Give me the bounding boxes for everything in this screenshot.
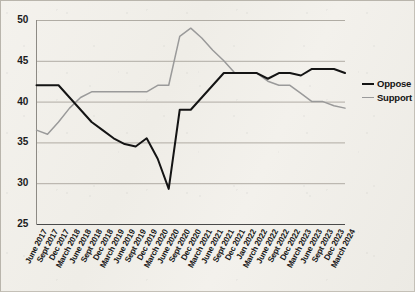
legend-swatch-support [362, 97, 374, 98]
series-line-oppose [37, 69, 346, 189]
gridlines [37, 21, 346, 184]
legend-item-oppose: Oppose [362, 78, 412, 89]
legend-item-support: Support [362, 92, 412, 103]
legend-swatch-oppose [362, 83, 374, 85]
chart-figure: 253035404550 June 2017Sept 2017Dec 2017M… [0, 0, 415, 292]
chart-legend: Oppose Support [362, 78, 412, 103]
legend-label-support: Support [377, 92, 412, 103]
series-line-support [37, 28, 346, 134]
plot-area [0, 0, 415, 292]
legend-label-oppose: Oppose [377, 78, 411, 89]
